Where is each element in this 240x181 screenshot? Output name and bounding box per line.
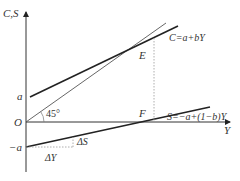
origin-label: O xyxy=(14,116,22,128)
delta-y-label: ΔY xyxy=(44,152,58,163)
consumption-line-label: C=a+bY xyxy=(169,32,206,43)
a-intercept-label: a xyxy=(17,90,23,102)
neg-a-intercept-label: −a xyxy=(9,141,22,153)
point-e-label: E xyxy=(138,49,146,61)
saving-line-label: S=−a+(1−b)Y xyxy=(167,111,228,123)
consumption-saving-diagram: C,S Y O a −a 45° C=a+bY S=−a+(1−b)Y E F … xyxy=(0,0,240,181)
angle-arc xyxy=(41,112,44,122)
y-axis-label: C,S xyxy=(3,7,19,19)
consumption-line xyxy=(30,26,178,97)
delta-s-label: ΔS xyxy=(76,136,88,147)
point-f-label: F xyxy=(138,107,146,119)
x-axis-label: Y xyxy=(224,124,232,136)
angle-label: 45° xyxy=(46,108,60,119)
